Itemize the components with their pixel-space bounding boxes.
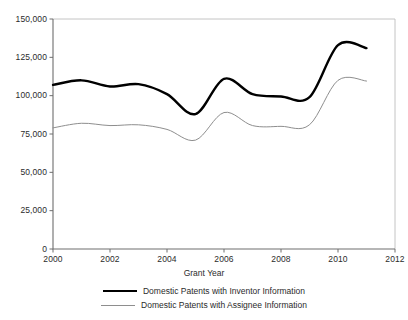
plot-frame <box>53 19 395 249</box>
chart-figure: 025,00050,00075,000100,000125,000150,000… <box>0 0 408 320</box>
y-axis-tick-label: 100,000 <box>16 90 47 100</box>
y-axis-tick-label: 50,000 <box>20 167 47 177</box>
legend-line-swatch <box>101 305 135 306</box>
x-axis-tick-label: 2012 <box>370 254 408 264</box>
x-axis-title: Grant Year <box>0 268 408 278</box>
x-axis-tick-label: 2000 <box>28 254 78 264</box>
legend-label: Domestic Patents with Inventor Informati… <box>143 286 305 296</box>
x-axis-tick-label: 2004 <box>142 254 192 264</box>
series-line <box>53 42 367 114</box>
x-axis-tick-label: 2006 <box>199 254 249 264</box>
series-line <box>53 77 367 140</box>
y-axis-tick-label: 125,000 <box>16 52 47 62</box>
x-axis-tick-label: 2010 <box>313 254 363 264</box>
y-axis-tick-label: 0 <box>42 244 47 254</box>
y-axis-tick-label: 25,000 <box>20 205 47 215</box>
y-axis-tick-label: 150,000 <box>16 14 47 24</box>
x-axis-tick-label: 2002 <box>85 254 135 264</box>
x-axis-tick-label: 2008 <box>256 254 306 264</box>
legend-line-swatch <box>103 290 137 292</box>
legend-item: Domestic Patents with Assignee Informati… <box>101 299 307 311</box>
y-axis-tick-label: 75,000 <box>20 129 47 139</box>
legend-item: Domestic Patents with Inventor Informati… <box>103 285 305 297</box>
axis-spine <box>53 19 395 249</box>
legend-label: Domestic Patents with Assignee Informati… <box>141 300 307 310</box>
chart-legend: Domestic Patents with Inventor Informati… <box>0 285 408 311</box>
